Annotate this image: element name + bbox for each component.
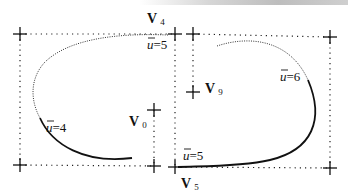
control-point-cross bbox=[323, 30, 337, 44]
control-point-cross bbox=[13, 158, 27, 172]
control-point-cross bbox=[13, 27, 27, 41]
control-point-cross bbox=[147, 159, 161, 173]
vertex-label-v0: V0 bbox=[129, 114, 147, 130]
svg-text:u=5: u=5 bbox=[147, 37, 167, 52]
svg-text:u=4: u=4 bbox=[46, 120, 67, 135]
param-label-u4: u=4 bbox=[46, 120, 67, 135]
param-label-u6: u=6 bbox=[280, 69, 301, 84]
bspline-curve-diagram: V4 V0 V9 V5 u=5 u=4 u=6 u=5 bbox=[0, 0, 348, 196]
vertex-label-v5: V5 bbox=[181, 176, 199, 192]
param-label-u5-bottom: u=5 bbox=[183, 148, 203, 163]
svg-text:u=6: u=6 bbox=[280, 69, 301, 84]
left-control-polygon bbox=[20, 34, 175, 166]
vertex-label-v9: V9 bbox=[205, 81, 223, 97]
control-point-cross bbox=[186, 27, 200, 41]
vertex-label-v4: V4 bbox=[147, 11, 165, 27]
control-point-v0-cross bbox=[147, 103, 161, 117]
control-point-v4-cross bbox=[168, 27, 182, 41]
control-point-v9-cross bbox=[186, 85, 200, 99]
control-point-cross bbox=[323, 161, 337, 175]
svg-text:u=5: u=5 bbox=[183, 148, 203, 163]
param-label-u5-top: u=5 bbox=[147, 37, 167, 52]
